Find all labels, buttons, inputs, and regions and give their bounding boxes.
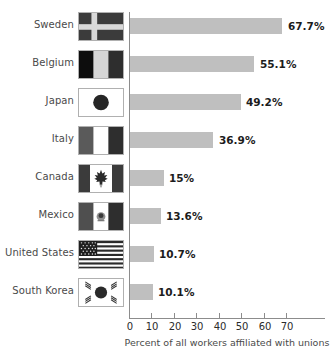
- category-label: Mexico: [0, 209, 74, 220]
- x-axis-tick-label: 20: [165, 321, 185, 332]
- flag-sweden-svg: [79, 13, 123, 40]
- flag-japan-icon: [78, 88, 124, 117]
- x-axis-line: [129, 318, 325, 319]
- bar-value-label: 49.2%: [246, 94, 282, 110]
- flag-canada-svg: [79, 165, 123, 192]
- flag-italy-icon: [78, 126, 124, 155]
- bar-value-label: 10.1%: [158, 284, 194, 300]
- x-axis-tick-label: 40: [210, 321, 230, 332]
- flag-south-korea-icon: [78, 278, 124, 307]
- x-axis-tick-label: 70: [277, 321, 297, 332]
- bar: [130, 56, 254, 72]
- category-label: Belgium: [0, 57, 74, 68]
- flag-belgium-icon: [78, 50, 124, 79]
- category-label: Sweden: [0, 19, 74, 30]
- chart-row: Italy 36.9%: [0, 122, 332, 159]
- x-axis-title: Percent of all workers affiliated with u…: [122, 337, 332, 348]
- bar: [130, 18, 282, 34]
- x-axis-tick-label: 60: [255, 321, 275, 332]
- bar-value-label: 15%: [169, 170, 194, 186]
- bar: [130, 94, 241, 110]
- bar-value-label: 36.9%: [219, 132, 255, 148]
- flag-canada-icon: [78, 164, 124, 193]
- x-axis-tick: [286, 313, 287, 319]
- bar: [130, 246, 154, 262]
- x-axis-tick: [241, 313, 242, 319]
- chart-row: South Korea: [0, 274, 332, 311]
- x-axis-tick: [129, 313, 130, 319]
- bar: [130, 132, 213, 148]
- x-axis-tick-label: 10: [142, 321, 162, 332]
- category-label: Japan: [0, 95, 74, 106]
- category-label: South Korea: [0, 285, 74, 296]
- x-axis-tick: [264, 313, 265, 319]
- chart-row: Sweden 67.7%: [0, 8, 332, 45]
- x-axis-tick: [151, 313, 152, 319]
- x-axis-tick-label: 50: [232, 321, 252, 332]
- x-axis-tick-label: 30: [187, 321, 207, 332]
- flag-italy-svg: [79, 127, 123, 154]
- flag-united-states-icon: [78, 240, 124, 269]
- chart-row: Mexico 13.6%: [0, 198, 332, 235]
- category-label: United States: [0, 247, 74, 258]
- flag-south-korea-svg: [79, 279, 123, 306]
- flag-sweden-icon: [78, 12, 124, 41]
- chart-row: United States: [0, 236, 332, 273]
- x-axis-tick: [174, 313, 175, 319]
- bar: [130, 284, 153, 300]
- x-axis-tick: [196, 313, 197, 319]
- flag-mexico-svg: [79, 203, 123, 230]
- flag-united-states-svg: [79, 241, 123, 268]
- chart-row: Belgium 55.1%: [0, 46, 332, 83]
- bar-value-label: 13.6%: [166, 208, 202, 224]
- x-axis-tick-label: 0: [120, 321, 140, 332]
- chart-row: Canada 15%: [0, 160, 332, 197]
- category-label: Italy: [0, 133, 74, 144]
- bar-value-label: 10.7%: [159, 246, 195, 262]
- flag-mexico-icon: [78, 202, 124, 231]
- bar: [130, 170, 164, 186]
- chart-row: Japan 49.2%: [0, 84, 332, 121]
- bar-value-label: 67.7%: [288, 18, 324, 34]
- flag-japan-svg: [79, 89, 123, 116]
- flag-belgium-svg: [79, 51, 123, 78]
- union-membership-bar-chart: Sweden 67.7% Belgium 55.1% J: [0, 0, 332, 359]
- category-label: Canada: [0, 171, 74, 182]
- y-axis-line: [129, 12, 130, 319]
- bar: [130, 208, 161, 224]
- bar-value-label: 55.1%: [260, 56, 296, 72]
- x-axis-tick: [219, 313, 220, 319]
